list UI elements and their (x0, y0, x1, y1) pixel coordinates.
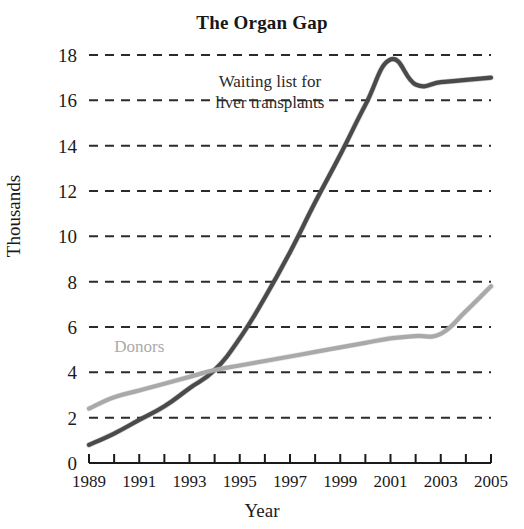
y-tick-label: 16 (58, 90, 77, 111)
y-tick-label: 14 (58, 136, 78, 157)
y-tick-label: 12 (58, 181, 77, 202)
x-tick-label: 2003 (424, 472, 458, 491)
organ-gap-chart: The Organ Gap Thousands Year 02468101214… (0, 0, 524, 529)
y-tick-label: 18 (58, 45, 77, 66)
x-tick-label: 1997 (273, 472, 308, 491)
x-tick-label: 1995 (223, 472, 257, 491)
x-tick-label: 1989 (72, 472, 106, 491)
y-axis-ticks: 024681012141618 (58, 45, 78, 474)
y-tick-label: 6 (68, 317, 78, 338)
annotation-donors: Donors (114, 337, 164, 356)
y-tick-label: 10 (58, 226, 77, 247)
x-tick-label: 1999 (323, 472, 357, 491)
annotation-waiting-list: Waiting list for (219, 72, 322, 91)
x-tick-label: 1991 (122, 472, 156, 491)
x-tick-label: 2005 (474, 472, 508, 491)
x-tick-label: 2001 (374, 472, 408, 491)
plot-area: 024681012141618 198919911993199519971999… (0, 0, 524, 529)
y-tick-label: 2 (68, 408, 78, 429)
annotation-layer: Waiting list forliver transplantsDonors (114, 72, 324, 356)
y-tick-label: 4 (68, 362, 78, 383)
annotation-waiting-list: liver transplants (215, 93, 324, 112)
data-series-layer (89, 59, 491, 445)
x-tick-label: 1993 (173, 472, 207, 491)
y-tick-label: 8 (68, 272, 78, 293)
y-tick-label: 0 (68, 453, 78, 474)
x-axis-ticks: 198919911993199519971999200120032005 (72, 454, 508, 491)
